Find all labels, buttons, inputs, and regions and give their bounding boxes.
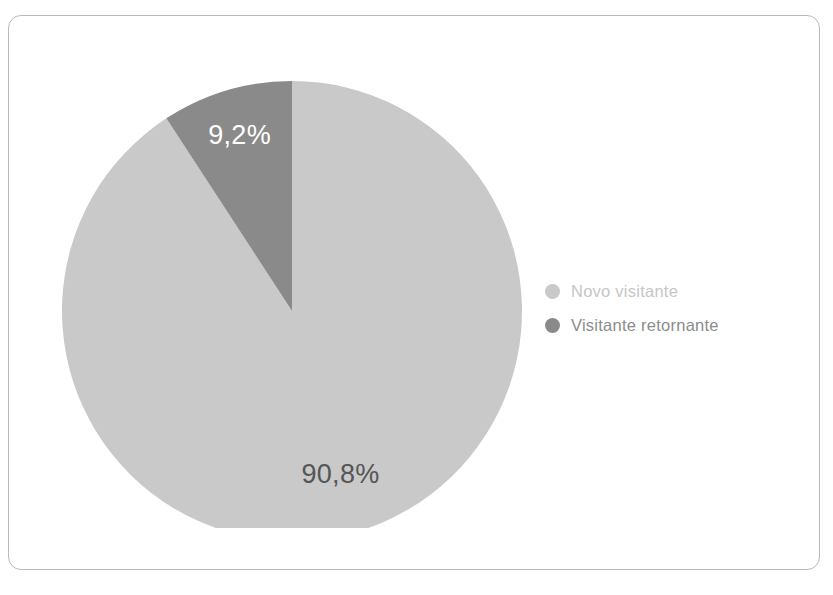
legend-swatch-icon	[545, 318, 560, 333]
pie-slice-novo-visitante[interactable]	[62, 81, 522, 528]
pie-label-minor: 9,2%	[208, 120, 271, 150]
pie-chart: 90,8% 9,2%	[54, 58, 524, 528]
legend-swatch-icon	[545, 284, 560, 299]
pie-label-major: 90,8%	[301, 459, 379, 489]
legend-item-label: Novo visitante	[571, 282, 678, 301]
chart-card: 90,8% 9,2% Novo visitante Visitante reto…	[8, 15, 820, 570]
legend-item-visitante-retornante[interactable]: Visitante retornante	[545, 308, 810, 342]
legend-item-label: Visitante retornante	[571, 316, 719, 335]
pie-svg: 90,8% 9,2%	[54, 58, 524, 528]
legend-item-novo-visitante[interactable]: Novo visitante	[545, 274, 810, 308]
chart-legend: Novo visitante Visitante retornante	[545, 274, 810, 342]
